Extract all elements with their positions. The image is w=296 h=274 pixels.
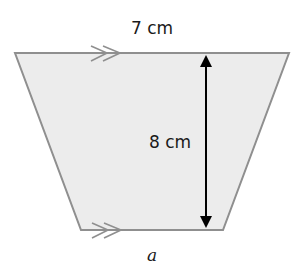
trapezoid-diagram: 7 cm 8 cm a [0, 0, 296, 274]
top-side-label: 7 cm [131, 18, 173, 38]
bottom-side-label: a [147, 245, 157, 265]
height-label: 8 cm [149, 132, 191, 152]
